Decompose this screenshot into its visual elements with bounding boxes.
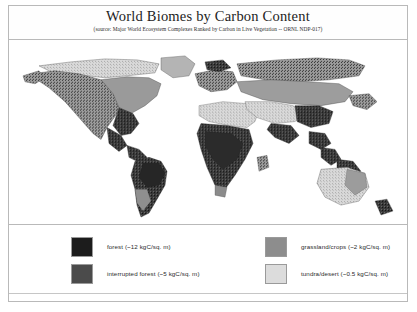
legend-item-grassland-crops: grassland/crops (~2 kgC/sq. m) [209, 237, 409, 257]
legend-panel: forest (~12 kgC/sq. m) grassland/crops (… [9, 225, 407, 301]
legend-item-tundra-desert: tundra/desert (~0.5 kgC/sq. m) [209, 264, 409, 284]
figure-container: World Biomes by Carbon Content (source: … [8, 5, 408, 302]
legend-grid: forest (~12 kgC/sq. m) grassland/crops (… [9, 233, 407, 287]
page-title: World Biomes by Carbon Content [106, 8, 310, 25]
legend-swatch-interrupted-forest [71, 264, 93, 284]
legend-item-forest: forest (~12 kgC/sq. m) [9, 237, 209, 257]
map-panel [9, 40, 407, 225]
title-block: World Biomes by Carbon Content (source: … [9, 6, 407, 40]
legend-label-forest: forest (~12 kgC/sq. m) [107, 243, 171, 250]
legend-swatch-tundra-desert [265, 264, 287, 284]
world-map [9, 40, 407, 224]
legend-swatch-forest [71, 237, 93, 257]
legend-label-grassland-crops: grassland/crops (~2 kgC/sq. m) [301, 243, 390, 250]
legend-label-tundra-desert: tundra/desert (~0.5 kgC/sq. m) [301, 270, 388, 277]
legend-bottom-rule [9, 293, 407, 294]
legend-item-interrupted-forest: interrupted forest (~5 kgC/sq. m) [9, 264, 209, 284]
source-subtitle: (source: Major World Ecosystem Complexes… [94, 25, 323, 33]
legend-label-interrupted-forest: interrupted forest (~5 kgC/sq. m) [107, 270, 200, 277]
legend-swatch-grassland-crops [265, 237, 287, 257]
